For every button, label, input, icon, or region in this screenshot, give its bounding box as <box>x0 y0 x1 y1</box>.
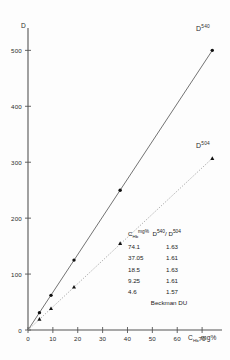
y-tick-label: 300 <box>0 159 22 166</box>
table-cell-ratio: 1.61 <box>166 254 206 261</box>
curve-label-d504-sup: 504 <box>201 141 210 146</box>
table-cell-chb: 4.6 <box>128 288 166 295</box>
table-cell-chb: 37.05 <box>128 254 166 261</box>
table-header-col2-sup2: 504 <box>173 229 181 234</box>
table-header-col2-sup: 540 <box>157 229 165 234</box>
table-cell-ratio: 1.63 <box>166 266 206 273</box>
x-axis-title-sub: Hb <box>193 338 199 343</box>
table-row: 74.11.63 <box>128 243 224 250</box>
table-header-col2-sep: / <box>165 230 167 237</box>
x-tick-label: 20 <box>70 335 86 342</box>
x-tick-label: 30 <box>95 335 111 342</box>
y-axis-title: D <box>21 22 26 29</box>
x-tick-label: 60 <box>169 335 185 342</box>
y-tick-label: 500 <box>0 47 22 54</box>
table-row: 4.61.57 <box>128 288 224 295</box>
y-tick-label: 0 <box>0 327 22 334</box>
x-tick-label: 10 <box>45 335 61 342</box>
x-axis-title: CHb mg% <box>188 334 217 343</box>
table-row: 9.251.61 <box>128 277 224 284</box>
ratio-table: CHbmg% D540/ D504 74.11.6337.051.6118.51… <box>128 229 224 306</box>
x-tick-label: 0 <box>20 335 36 342</box>
x-tick-label: 40 <box>119 335 135 342</box>
table-row: 18.51.63 <box>128 266 224 273</box>
table-cell-ratio: 1.63 <box>166 243 206 250</box>
table-header-col1-unit: mg% <box>138 229 149 234</box>
y-tick-label: 100 <box>0 271 22 278</box>
x-tick-label: 50 <box>144 335 160 342</box>
table-cell-chb: 18.5 <box>128 266 166 273</box>
table-row: 37.051.61 <box>128 254 224 261</box>
table-cell-chb: 74.1 <box>128 243 166 250</box>
ratio-table-body: 74.11.6337.051.6118.51.639.251.614.61.57 <box>128 243 224 295</box>
curve-label-d540: D540 <box>196 24 210 32</box>
table-cell-chb: 9.25 <box>128 277 166 284</box>
ratio-table-footer: Beckman DU <box>128 299 224 306</box>
curve-label-d540-sup: 540 <box>201 24 210 29</box>
figure-container: D 0100200300400500 010203040506070 CHb m… <box>0 0 230 360</box>
table-cell-ratio: 1.57 <box>166 288 206 295</box>
x-axis-title-unit: mg% <box>201 334 217 341</box>
table-header-col1-sub: Hb <box>132 234 138 239</box>
curve-label-d504: D504 <box>196 141 210 149</box>
y-tick-label: 200 <box>0 215 22 222</box>
table-cell-ratio: 1.61 <box>166 277 206 284</box>
ratio-table-header: CHbmg% D540/ D504 <box>128 229 224 239</box>
y-tick-label: 400 <box>0 103 22 110</box>
